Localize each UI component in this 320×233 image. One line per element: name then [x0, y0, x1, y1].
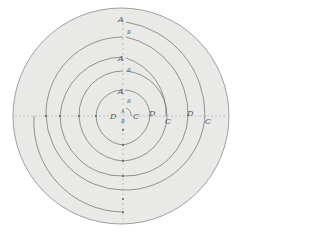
- label-a1: A: [118, 16, 124, 24]
- label-c2: C: [165, 118, 171, 126]
- label-a3: A: [118, 88, 124, 96]
- label-d2: D: [149, 110, 155, 118]
- label-b2: B: [127, 68, 131, 73]
- label-c3: C: [205, 118, 211, 126]
- label-d3: D: [187, 110, 193, 118]
- label-b4: B: [121, 119, 125, 124]
- label-d1: D: [110, 113, 116, 121]
- label-c1: C: [133, 113, 139, 121]
- label-a2: A: [118, 55, 124, 63]
- label-a4: A: [121, 109, 125, 114]
- label-b3: B: [127, 99, 131, 104]
- label-b1: B: [127, 30, 131, 35]
